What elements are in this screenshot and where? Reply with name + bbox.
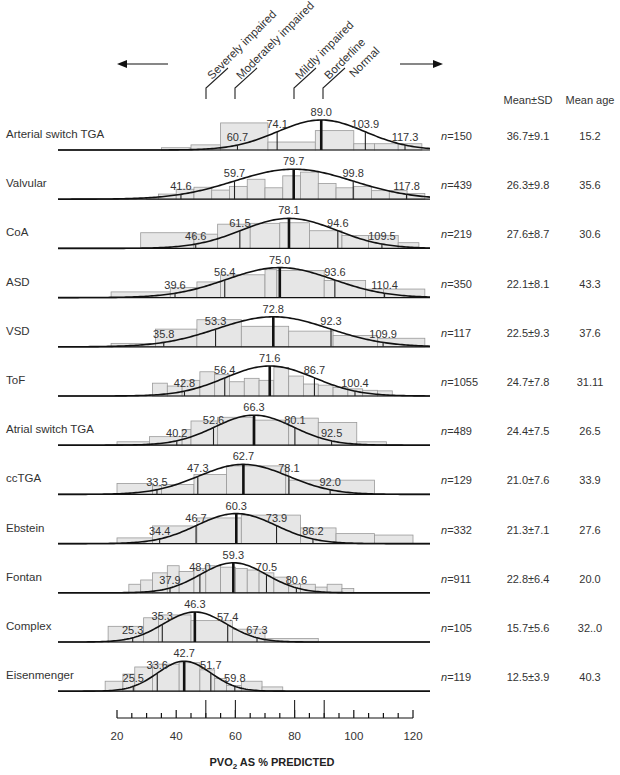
percentile-value: 75.0 [269,254,290,266]
percentile-value: 60.7 [227,131,248,143]
histogram-bar [229,382,244,396]
sample-size: n=350 [441,278,472,290]
percentile-value: 25.5 [123,672,144,684]
histogram-bar [327,584,342,593]
percentile-value: 52.6 [203,414,224,426]
percentile-value: 72.8 [263,303,284,315]
mean-age-value: 27.6 [579,524,600,536]
histogram-bar [247,179,265,199]
mean-sd-value: 36.7±9.1 [507,130,550,142]
percentile-value: 66.3 [243,401,264,413]
percentile-value: 42.8 [174,377,195,389]
percentile-value: 41.6 [170,180,191,192]
mean-age-value: 43.3 [579,278,600,290]
percentile-value: 53.3 [205,315,226,327]
mean-sd-value: 22.8±6.4 [507,573,550,585]
percentile-value: 73.9 [266,512,287,524]
percentile-value: 33.5 [146,476,167,488]
row-label: Complex [6,620,52,632]
percentile-value: 40.2 [166,427,187,439]
x-axis-label: PVO2 AS % PREDICTED [209,756,334,771]
percentile-value: 57.4 [217,611,238,623]
sample-size: n=117 [441,327,471,339]
percentile-value: 92.0 [319,476,340,488]
percentile-value: 59.3 [223,549,244,561]
percentile-value: 51.7 [200,659,221,671]
row-label: ccTGA [6,472,41,484]
percentile-value: 56.4 [214,266,235,278]
percentile-value: 92.5 [321,427,342,439]
sample-size: n=150 [441,130,472,142]
row-label: ToF [6,374,25,386]
histogram-bar [244,378,259,396]
chart-row: Eisenmenger25.533.642.751.759.8n=11912.5… [6,647,601,691]
mean-sd-value: 22.1±8.1 [507,278,550,290]
histogram-bar [259,380,274,396]
percentile-value: 35.8 [153,328,174,340]
histogram-bar [354,144,375,150]
histogram-bar [247,570,259,593]
sample-size: n=105 [441,622,472,634]
mean-age-value: 35.6 [579,179,600,191]
histogram-bar [289,376,304,396]
histogram-bar [274,368,289,397]
x-tick-label: 100 [344,730,363,742]
mean-sd-value: 27.6±8.7 [507,228,550,240]
mean-age-value: 20.0 [579,573,600,585]
chart-row: Complex25.335.346.357.467.3n=10515.7±5.6… [6,598,602,642]
chart-row: ToF42.856.471.686.7100.4n=105524.7±7.831… [6,352,603,396]
percentile-value: 99.8 [342,167,363,179]
percentile-value: 25.3 [122,624,143,636]
percentile-value: 47.3 [187,462,208,474]
percentile-value: 70.5 [256,561,277,573]
arrow-left-head-icon [117,60,127,68]
histogram-bar [309,231,342,249]
percentile-value: 56.4 [214,364,235,376]
sample-size: n=219 [441,228,472,240]
chart-row: VSD35.853.372.892.3109.9n=11722.5±9.337.… [6,303,601,347]
x-tick-label: 120 [403,730,422,742]
percentile-value: 78.1 [278,462,299,474]
histogram-bar [179,663,200,692]
mean-sd-value: 15.7±5.6 [507,622,550,634]
row-label: Ebstein [6,522,44,534]
mean-age-value: 15.2 [579,130,600,142]
mean-sd-value: 12.5±3.9 [507,671,550,683]
header-mean-age: Mean age [566,94,615,106]
sample-size: n=1055 [441,376,478,388]
percentile-value: 35.3 [152,610,173,622]
row-label: ASD [6,276,30,288]
percentile-value: 61.5 [229,217,250,229]
header-mean-sd: Mean±SD [504,94,553,106]
chart-row: Atrial switch TGA40.252.666.380.192.5n=4… [6,401,601,445]
histogram-bar [250,223,280,248]
percentile-value: 59.8 [224,672,245,684]
histogram-bar [235,569,247,593]
percentile-value: 34.4 [149,525,170,537]
histogram-bar [265,270,277,298]
percentile-value: 86.2 [302,525,323,537]
row-label: Arterial switch TGA [6,128,105,140]
percentile-value: 93.6 [324,266,345,278]
chart-row: Ebstein34.446.760.373.986.2n=33221.3±7.1… [6,500,601,544]
mean-sd-value: 26.3±9.8 [507,179,550,191]
histogram-bar [268,142,315,150]
percentile-value: 80.6 [286,574,307,586]
chart-row: Fontan37.948.059.370.580.6n=91122.8±6.42… [6,549,601,593]
mean-sd-value: 21.0±7.6 [507,474,550,486]
pvo2-histogram-chart: Severely impairedModerately impairedMild… [0,0,620,775]
histogram-bar [336,188,354,199]
mean-age-value: 33.9 [579,474,600,486]
percentile-value: 39.6 [164,279,185,291]
mean-age-value: 26.5 [579,425,600,437]
percentile-value: 100.4 [341,377,369,389]
histogram-bar [318,184,336,200]
percentile-value: 46.6 [185,230,206,242]
histogram-bar [318,385,333,396]
mean-sd-value: 24.4±7.5 [507,425,550,437]
percentile-value: 60.3 [226,500,247,512]
row-label: Fontan [6,571,42,583]
percentile-value: 94.6 [327,217,348,229]
histogram-bar [303,384,318,396]
percentile-value: 110.4 [371,279,398,291]
